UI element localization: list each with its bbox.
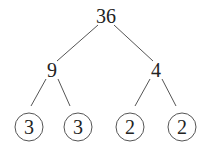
- leaf-4: 2: [177, 116, 187, 138]
- node-root: 36: [96, 5, 116, 27]
- edge-4-2a: [135, 79, 150, 106]
- edge-9-3a: [31, 79, 46, 106]
- leaf-3: 2: [125, 116, 135, 138]
- edge-4-2b: [162, 79, 176, 106]
- leaf-1: 3: [24, 116, 34, 138]
- edge-36-4: [114, 25, 153, 61]
- edge-9-3b: [58, 79, 70, 106]
- factor-tree: 36 9 4 3 3 2 2: [0, 0, 211, 151]
- edge-36-9: [57, 25, 98, 61]
- node-level1-left: 9: [47, 59, 57, 81]
- node-level1-right: 4: [151, 59, 161, 81]
- leaf-2: 3: [73, 116, 83, 138]
